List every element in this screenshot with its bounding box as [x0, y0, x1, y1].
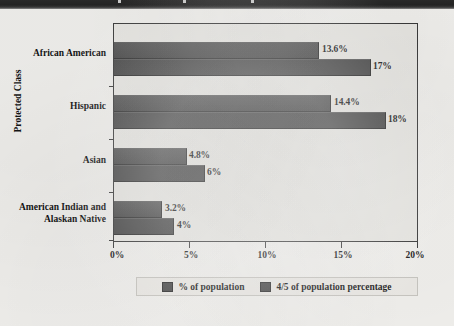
x-axis-tick — [265, 242, 266, 248]
bar-american-indian-series2 — [114, 218, 174, 235]
plot-area: 13.6% 17% 14.4% 18% 4.8% 6% 3.2% 4% — [113, 23, 418, 242]
value-label-asian-series1: 4.8% — [189, 150, 210, 160]
bar-african-american-series2 — [114, 59, 371, 76]
category-label-line: African American — [33, 48, 106, 60]
legend-entry-four-fifths-of-population-percentage: 4/5 of population percentage — [260, 282, 391, 292]
legend-label: 4/5 of population percentage — [276, 282, 391, 292]
chart-page: Protected Class African American Hispani… — [0, 0, 454, 326]
x-axis-tick — [417, 242, 418, 248]
x-axis-label-0: 0% — [110, 250, 124, 260]
value-label-american-indian-series1: 3.2% — [165, 203, 186, 213]
chart-legend: % of population 4/5 of population percen… — [136, 277, 418, 296]
value-label-american-indian-series2: 4% — [177, 220, 191, 230]
y-axis-tick — [109, 86, 114, 87]
y-axis-title: Protected Class — [13, 46, 23, 156]
bar-asian-series1 — [114, 148, 187, 165]
bar-asian-series2 — [114, 165, 205, 182]
category-label-line: Hispanic — [70, 101, 106, 113]
bar-hispanic-series1 — [114, 95, 331, 112]
legend-entry-percent-of-population: % of population — [162, 282, 244, 292]
legend-label: % of population — [178, 282, 244, 292]
x-axis-label-3: 15% — [334, 250, 353, 260]
category-label-hispanic: Hispanic — [70, 101, 106, 113]
category-label-african-american: African American — [33, 48, 106, 60]
x-axis-label-1: 5% — [184, 250, 198, 260]
bar-hispanic-series2 — [114, 112, 386, 129]
x-axis-tick — [189, 242, 190, 248]
value-label-asian-series2: 6% — [207, 167, 221, 177]
bar-african-american-series1 — [114, 42, 319, 59]
category-label-line: Alaskan Native — [19, 214, 106, 226]
x-axis-label-4: 20% — [406, 250, 425, 260]
category-label-american-indian: American Indian and Alaskan Native — [19, 202, 106, 225]
category-label-line: Asian — [83, 155, 106, 167]
y-axis-tick — [109, 139, 114, 140]
x-axis-tick — [341, 242, 342, 248]
value-label-hispanic-series1: 14.4% — [334, 97, 360, 107]
y-axis-tick — [109, 192, 114, 193]
legend-swatch-icon — [260, 282, 271, 292]
x-axis-label-2: 10% — [258, 250, 277, 260]
legend-swatch-icon — [162, 282, 173, 292]
bar-american-indian-series1 — [114, 201, 162, 218]
y-axis-tick — [109, 240, 114, 241]
x-axis-tick — [113, 242, 114, 248]
category-label-line: American Indian and — [19, 202, 106, 214]
bars-container: 13.6% 17% 14.4% 18% 4.8% 6% 3.2% 4% — [114, 24, 417, 241]
category-label-asian: Asian — [83, 155, 106, 167]
value-label-african-american-series2: 17% — [373, 61, 392, 71]
value-label-african-american-series1: 13.6% — [322, 44, 348, 54]
scan-edge-band — [0, 0, 454, 9]
value-label-hispanic-series2: 18% — [388, 114, 407, 124]
